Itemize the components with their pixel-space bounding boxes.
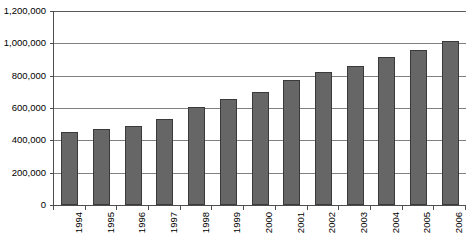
bar (442, 41, 459, 205)
bar (220, 99, 237, 205)
bar (125, 126, 142, 205)
bar (347, 66, 364, 205)
bar-chart: 0200,000400,000600,000800,0001,000,0001,… (0, 0, 470, 247)
x-axis-tick-label: 2003 (359, 212, 369, 233)
bar (252, 92, 269, 205)
y-axis-tick-label: 400,000 (12, 135, 46, 145)
x-axis-tick-label: 1996 (137, 212, 147, 233)
x-axis: 1994199519961997199819992000200120022003… (53, 210, 465, 247)
bar (188, 107, 205, 205)
bar (61, 132, 78, 205)
bar (93, 129, 110, 205)
x-axis-tick-label: 2001 (296, 212, 306, 233)
y-axis-tick-label: 600,000 (12, 103, 46, 113)
bar (378, 57, 395, 205)
y-axis-tick-label: 200,000 (12, 168, 46, 178)
plot-area (53, 11, 466, 206)
x-axis-tick-label: 2005 (422, 212, 432, 233)
x-axis-tick-label: 1998 (201, 212, 211, 233)
y-axis-tick-label: 1,000,000 (4, 38, 46, 48)
x-axis-tick-label: 2002 (327, 212, 337, 233)
bar (283, 80, 300, 205)
y-axis-tick-label: 800,000 (12, 71, 46, 81)
x-axis-tick-label: 2000 (264, 212, 274, 233)
bar (410, 50, 427, 205)
x-axis-tick-label: 2004 (391, 212, 401, 233)
x-tick-mark (465, 205, 466, 210)
x-axis-tick-label: 1997 (169, 212, 179, 233)
bar (315, 72, 332, 205)
x-axis-tick-label: 1995 (106, 212, 116, 233)
x-axis-tick-label: 2006 (454, 212, 464, 233)
x-axis-tick-label: 1999 (232, 212, 242, 233)
bar-series (54, 11, 466, 205)
x-axis-tick-label: 1994 (74, 212, 84, 233)
y-axis-tick-label: 1,200,000 (4, 6, 46, 16)
y-axis-tick-label: 0 (41, 200, 46, 210)
y-axis: 0200,000400,000600,000800,0001,000,0001,… (0, 0, 52, 247)
bar (156, 119, 173, 205)
